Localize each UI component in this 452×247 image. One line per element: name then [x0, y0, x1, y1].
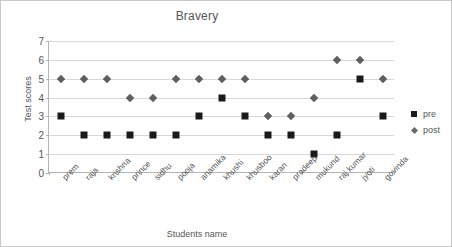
data-point-pre — [264, 132, 271, 139]
data-point-post — [355, 56, 363, 64]
data-point-post — [217, 74, 225, 82]
data-point-post — [309, 93, 317, 101]
data-point-pre — [333, 132, 340, 139]
data-point-pre — [195, 113, 202, 120]
chart-legend: pre post — [409, 109, 440, 141]
legend-item-pre: pre — [409, 109, 440, 119]
data-point-pre — [241, 113, 248, 120]
data-point-pre — [379, 113, 386, 120]
data-point-pre — [218, 94, 225, 101]
data-point-post — [194, 74, 202, 82]
y-tick-label: 6 — [38, 54, 44, 65]
data-point-post — [56, 74, 64, 82]
legend-swatch-diamond-icon — [409, 128, 419, 133]
y-tick-label: 1 — [38, 149, 44, 160]
data-point-post — [332, 56, 340, 64]
gridline — [49, 60, 394, 61]
legend-label-post: post — [423, 125, 440, 135]
gridline — [49, 41, 394, 42]
data-point-post — [378, 74, 386, 82]
y-tick-label: 2 — [38, 130, 44, 141]
data-point-pre — [287, 132, 294, 139]
y-tick-mark — [46, 79, 49, 80]
chart-title: Bravery — [1, 9, 393, 23]
data-point-post — [171, 74, 179, 82]
data-point-pre — [356, 75, 363, 82]
y-tick-mark — [46, 135, 49, 136]
y-tick-label: 3 — [38, 111, 44, 122]
data-point-pre — [103, 132, 110, 139]
x-axis-labels: premrajakrishnaprincesidhupoojaanamikakh… — [48, 175, 393, 225]
data-point-post — [263, 112, 271, 120]
data-point-post — [79, 74, 87, 82]
data-point-pre — [172, 132, 179, 139]
data-point-post — [240, 74, 248, 82]
y-tick-mark — [46, 154, 49, 155]
y-tick-label: 0 — [38, 168, 44, 179]
x-axis-title: Students name — [1, 229, 393, 239]
data-point-pre — [126, 132, 133, 139]
gridline — [49, 116, 394, 117]
legend-label-pre: pre — [423, 109, 436, 119]
y-tick-mark — [46, 41, 49, 42]
y-axis-title: Test scores — [23, 76, 33, 122]
data-point-pre — [80, 132, 87, 139]
legend-swatch-square-icon — [409, 111, 419, 117]
data-point-post — [148, 93, 156, 101]
y-tick-label: 7 — [38, 36, 44, 47]
gridline — [49, 135, 394, 136]
y-tick-mark — [46, 98, 49, 99]
legend-item-post: post — [409, 125, 440, 135]
data-point-post — [125, 93, 133, 101]
y-tick-label: 4 — [38, 92, 44, 103]
data-point-pre — [149, 132, 156, 139]
y-tick-label: 5 — [38, 73, 44, 84]
chart-frame: Bravery Test scores 01234567 premrajakri… — [0, 0, 452, 247]
data-point-post — [286, 112, 294, 120]
data-point-pre — [57, 113, 64, 120]
data-point-post — [102, 74, 110, 82]
y-tick-mark — [46, 60, 49, 61]
y-tick-mark — [46, 116, 49, 117]
